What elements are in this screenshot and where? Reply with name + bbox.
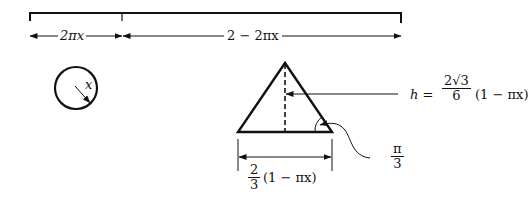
height-fraction-denominator: 6 — [450, 89, 462, 103]
angle-fraction-numerator: π — [391, 142, 404, 157]
angle-fraction-denominator: 3 — [391, 157, 403, 171]
base-fraction-denominator: 3 — [248, 178, 260, 192]
height-fraction: 2√3 6 — [442, 74, 471, 102]
base-fraction-numerator: 2 — [248, 163, 260, 178]
angle-label: π 3 — [391, 142, 404, 170]
left-piece-label: 2πx — [58, 29, 86, 42]
wire-segment — [30, 13, 401, 23]
radius-label: x — [85, 78, 92, 91]
height-label-lhs: h = — [408, 88, 435, 101]
base-factor: (1 − πx) — [263, 171, 316, 184]
height-factor: (1 − πx) — [475, 88, 528, 101]
angle-pointer-curve — [320, 123, 370, 158]
triangle-shape — [238, 63, 398, 158]
right-piece-label: 2 − 2πx — [224, 29, 282, 42]
height-fraction-numerator: 2√3 — [442, 74, 471, 89]
base-fraction: 2 3 — [248, 163, 260, 191]
